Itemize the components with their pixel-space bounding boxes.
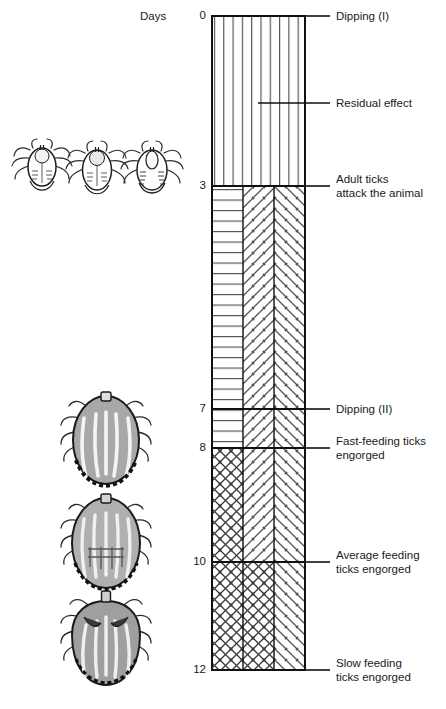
annotation-adult-ticks: Adult ticks attack the animal (336, 172, 423, 200)
axis-tick-8: 8 (180, 441, 206, 453)
unfed-adult-ticks-illustration (12, 139, 183, 194)
axis-tick-10: 10 (180, 555, 206, 567)
annotation-slow-feeding: Slow feeding ticks engorged (336, 656, 411, 684)
figure-canvas: Days (0, 0, 446, 709)
engorged-ticks-illustration (61, 392, 151, 685)
fast-engorged-band (212, 448, 243, 670)
annotation-dipping-2: Dipping (II) (336, 402, 392, 416)
annotation-fast-feeding: Fast-feeding ticks engorged (336, 434, 426, 462)
average-engorged-band (243, 562, 274, 670)
band-fills (212, 16, 305, 670)
axis-tick-0: 0 (180, 9, 206, 21)
slow-feeding-band (274, 186, 305, 670)
annotation-residual-effect: Residual effect (336, 96, 412, 110)
annotation-average-feeding: Average feeding ticks engorged (336, 548, 420, 576)
annotation-dipping-1: Dipping (I) (336, 9, 389, 23)
axis-tick-7: 7 (180, 402, 206, 414)
axis-tick-12: 12 (180, 663, 206, 675)
residual-effect-band (212, 16, 305, 186)
axis-tick-3: 3 (180, 179, 206, 191)
average-feeding-band (243, 186, 274, 562)
